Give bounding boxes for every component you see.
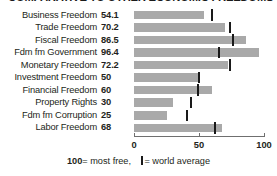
comparative-economic-freedoms-chart: COMPARATIVE TO OTHER ECONOMIC FREEDOMS B… bbox=[0, 0, 277, 176]
row-value: 30 bbox=[101, 97, 129, 108]
chart-rows: Business Freedom 54.1 Trade Freedom 70.2… bbox=[0, 9, 277, 134]
row-value: 86.5 bbox=[101, 35, 129, 46]
row-value: 72.2 bbox=[101, 60, 129, 71]
value-bar bbox=[134, 111, 167, 120]
value-bar bbox=[134, 98, 173, 107]
row-plot bbox=[134, 109, 264, 122]
table-row: Labor Freedom 68 bbox=[0, 122, 277, 135]
row-label: Fdm fm Government bbox=[0, 47, 97, 58]
value-bar bbox=[134, 11, 204, 20]
world-average-text: = world average bbox=[144, 156, 210, 166]
world-average-tick bbox=[229, 22, 231, 33]
value-bar bbox=[134, 86, 212, 95]
row-label: Fdm fm Corruption bbox=[0, 110, 97, 121]
axis-tick-label: 50 bbox=[194, 140, 204, 150]
chart-legend-footnote: 100= most free,= world average bbox=[0, 155, 277, 167]
row-value: 54.1 bbox=[101, 10, 129, 21]
row-label: Labor Freedom bbox=[0, 122, 97, 133]
row-label: Business Freedom bbox=[0, 10, 97, 21]
chart-title: COMPARATIVE TO OTHER ECONOMIC FREEDOMS bbox=[8, 0, 273, 3]
row-plot bbox=[134, 47, 264, 60]
row-value: 70.2 bbox=[101, 22, 129, 33]
value-bar bbox=[134, 124, 222, 133]
row-plot bbox=[134, 22, 264, 35]
world-average-tick bbox=[186, 110, 188, 121]
table-row: Fdm fm Government 96.4 bbox=[0, 47, 277, 60]
row-label: Fiscal Freedom bbox=[0, 35, 97, 46]
world-average-tick bbox=[211, 9, 213, 20]
row-label: Trade Freedom bbox=[0, 22, 97, 33]
x-axis: 0 50 100 bbox=[134, 136, 264, 137]
axis-tick-label: 100 bbox=[256, 140, 272, 150]
world-average-tick bbox=[218, 47, 220, 58]
row-label: Property Rights bbox=[0, 97, 97, 108]
table-row: Trade Freedom 70.2 bbox=[0, 22, 277, 35]
row-plot bbox=[134, 9, 264, 22]
row-label: Financial Freedom bbox=[0, 85, 97, 96]
table-row: Property Rights 30 bbox=[0, 97, 277, 110]
value-bar bbox=[134, 23, 225, 32]
row-plot bbox=[134, 34, 264, 47]
most-free-number: 100 bbox=[67, 156, 82, 166]
row-plot bbox=[134, 97, 264, 110]
row-plot bbox=[134, 84, 264, 97]
table-row: Investment Freedom 50 bbox=[0, 72, 277, 85]
row-label: Investment Freedom bbox=[0, 72, 97, 83]
row-value: 25 bbox=[101, 110, 129, 121]
value-bar bbox=[134, 73, 199, 82]
row-value: 50 bbox=[101, 72, 129, 83]
axis-tick bbox=[264, 133, 265, 137]
value-bar bbox=[134, 61, 228, 70]
table-row: Financial Freedom 60 bbox=[0, 84, 277, 97]
row-value: 60 bbox=[101, 85, 129, 96]
table-row: Fiscal Freedom 86.5 bbox=[0, 34, 277, 47]
axis-tick bbox=[199, 133, 200, 137]
value-bar bbox=[134, 48, 259, 57]
world-average-tick bbox=[232, 34, 234, 45]
most-free-text: = most free, bbox=[82, 156, 131, 166]
value-bar bbox=[134, 36, 246, 45]
table-row: Monetary Freedom 72.2 bbox=[0, 59, 277, 72]
table-row: Fdm fm Corruption 25 bbox=[0, 109, 277, 122]
world-average-tick bbox=[198, 72, 200, 83]
axis-tick bbox=[134, 133, 135, 137]
world-average-tick bbox=[214, 122, 216, 133]
row-plot bbox=[134, 72, 264, 85]
table-row: Business Freedom 54.1 bbox=[0, 9, 277, 22]
world-average-tick bbox=[197, 84, 199, 95]
world-average-tick bbox=[190, 97, 192, 108]
axis-tick-label: 0 bbox=[131, 140, 136, 150]
world-average-tick bbox=[229, 59, 231, 70]
row-plot bbox=[134, 59, 264, 72]
row-label: Monetary Freedom bbox=[0, 60, 97, 71]
row-value: 96.4 bbox=[101, 47, 129, 58]
row-value: 68 bbox=[101, 122, 129, 133]
